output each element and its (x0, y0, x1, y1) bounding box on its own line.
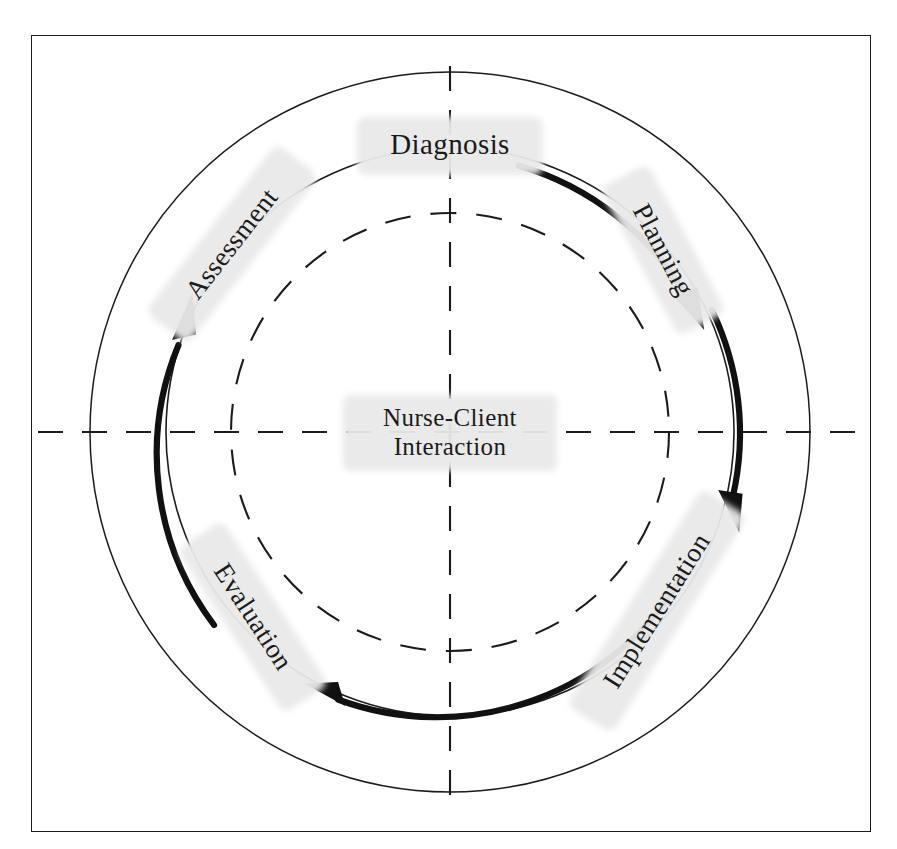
stage-label-diagnosis: Diagnosis (390, 128, 510, 162)
figure-page: Diagnosis Assessment Planning Implementa… (0, 0, 897, 849)
center-label-line-2: Interaction (383, 432, 517, 461)
center-label-line-1: Nurse-Client (383, 403, 517, 432)
center-label: Nurse-Client Interaction (383, 403, 517, 461)
